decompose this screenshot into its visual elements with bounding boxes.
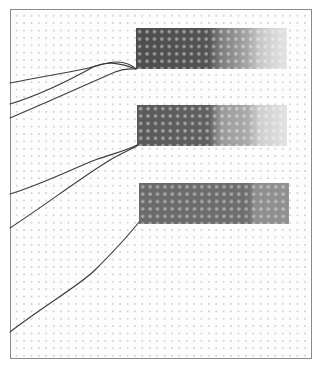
thread-1a [10, 62, 136, 83]
threads [0, 0, 323, 371]
thread-1c [10, 69, 136, 118]
thread-3a [10, 222, 139, 332]
thread-1b [10, 63, 136, 104]
thread-2a [10, 145, 137, 194]
